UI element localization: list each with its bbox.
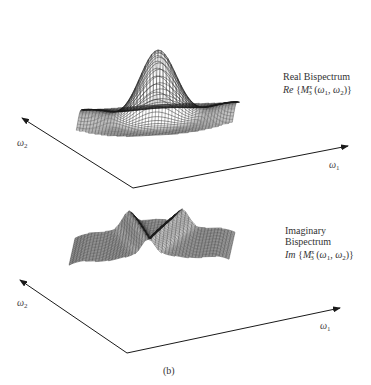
mesh-line (232, 102, 240, 123)
imag-omega1-label: ω1 (320, 320, 331, 333)
figure-canvas (0, 0, 371, 385)
imaginary-bispectrum-surface (69, 209, 235, 266)
imag-title-line2: Bispectrum (285, 236, 331, 247)
imag-formula: Im {Mx3 (ω1, ω2)} (285, 247, 354, 264)
mesh-line (95, 232, 102, 261)
imag-axis-omega1 (127, 308, 340, 353)
real-omega1-label: ω1 (329, 159, 340, 172)
mesh-line (158, 220, 166, 250)
imag-axis-omega2 (20, 280, 127, 353)
imag-title-line1: Imaginary (285, 225, 326, 236)
real-bispectrum-surface (76, 50, 240, 137)
real-axes (22, 118, 348, 188)
real-axis-omega1 (133, 146, 348, 188)
figure-caption: (b) (163, 365, 175, 376)
real-title: Real Bispectrum (283, 71, 350, 82)
imag-omega2-label: ω2 (17, 297, 28, 310)
real-formula: Re {Mx3 (ω1, ω2)} (283, 82, 352, 99)
imag-axes (20, 280, 340, 353)
real-omega2-label: ω2 (17, 137, 28, 150)
